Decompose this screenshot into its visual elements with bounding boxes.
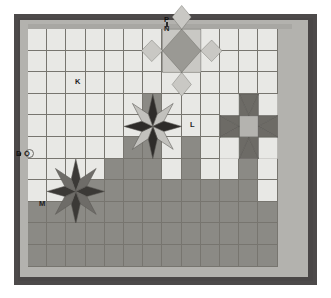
grid-cell bbox=[182, 223, 201, 245]
grid-cell bbox=[220, 180, 239, 202]
grid-cell bbox=[66, 94, 85, 116]
grid-cell bbox=[201, 223, 220, 245]
label-d: D bbox=[16, 150, 21, 158]
grid-cell bbox=[86, 115, 105, 137]
grid-cell bbox=[143, 223, 162, 245]
grid-cell bbox=[239, 180, 258, 202]
grid-cell bbox=[86, 51, 105, 73]
grid-cell bbox=[201, 137, 220, 159]
grid-cell bbox=[124, 202, 143, 224]
grid-cell bbox=[220, 223, 239, 245]
grid-cell bbox=[66, 51, 85, 73]
grid-cell bbox=[201, 94, 220, 116]
lemoyne-star-lower-left bbox=[47, 159, 105, 224]
grid-cell bbox=[239, 159, 258, 181]
grid-cell bbox=[86, 29, 105, 51]
grid-cell bbox=[47, 245, 66, 267]
grid-cell bbox=[162, 245, 181, 267]
grid-cell bbox=[124, 159, 143, 181]
grid-cell bbox=[47, 29, 66, 51]
sawtooth-star-right bbox=[220, 94, 278, 159]
grid-cell bbox=[258, 202, 277, 224]
grid-cell bbox=[258, 51, 277, 73]
grid-cell bbox=[105, 72, 124, 94]
grid-cell bbox=[143, 159, 162, 181]
grid-cell bbox=[66, 29, 85, 51]
grid-cell bbox=[182, 180, 201, 202]
grid-cell bbox=[47, 115, 66, 137]
grid-cell bbox=[105, 51, 124, 73]
grid-cell bbox=[47, 223, 66, 245]
grid-cell bbox=[201, 115, 220, 137]
grid-cell bbox=[258, 29, 277, 51]
grid-cell bbox=[258, 159, 277, 181]
grid-cell bbox=[105, 223, 124, 245]
grid-cell bbox=[105, 245, 124, 267]
grid-cell bbox=[124, 223, 143, 245]
grid-cell bbox=[162, 159, 181, 181]
grid-cell bbox=[66, 245, 85, 267]
grid-cell bbox=[201, 202, 220, 224]
grid-cell bbox=[86, 94, 105, 116]
label-m: M bbox=[39, 200, 45, 208]
grid-cell bbox=[28, 29, 47, 51]
grid-cell bbox=[239, 51, 258, 73]
grid-cell bbox=[105, 115, 124, 137]
label-o: O bbox=[24, 150, 30, 158]
grid-cell bbox=[239, 72, 258, 94]
grid-cell bbox=[258, 223, 277, 245]
grid-cell bbox=[182, 202, 201, 224]
label-k: K bbox=[75, 78, 80, 86]
square-on-point-block bbox=[141, 5, 222, 97]
grid-cell bbox=[105, 202, 124, 224]
grid-cell bbox=[201, 159, 220, 181]
grid-cell bbox=[105, 29, 124, 51]
grid-cell bbox=[201, 180, 220, 202]
label-l: L bbox=[190, 121, 195, 129]
grid-cell bbox=[28, 223, 47, 245]
grid-cell bbox=[182, 159, 201, 181]
quilt-diagram: PNKLMDO bbox=[0, 0, 331, 298]
grid-cell bbox=[66, 115, 85, 137]
lemoyne-star-center bbox=[124, 94, 182, 159]
grid-cell bbox=[105, 180, 124, 202]
grid-cell bbox=[86, 245, 105, 267]
grid-cell bbox=[66, 223, 85, 245]
grid-cell bbox=[220, 29, 239, 51]
grid-cell bbox=[182, 245, 201, 267]
grid-cell bbox=[258, 245, 277, 267]
grid-cell bbox=[239, 202, 258, 224]
grid-cell bbox=[143, 245, 162, 267]
grid-cell bbox=[162, 202, 181, 224]
grid-cell bbox=[162, 180, 181, 202]
grid-cell bbox=[47, 137, 66, 159]
grid-cell bbox=[124, 180, 143, 202]
grid-cell bbox=[162, 223, 181, 245]
grid-cell bbox=[66, 137, 85, 159]
grid-cell bbox=[143, 202, 162, 224]
grid-cell bbox=[47, 94, 66, 116]
grid-cell bbox=[28, 245, 47, 267]
grid-cell bbox=[86, 223, 105, 245]
grid-cell bbox=[143, 180, 162, 202]
grid-cell bbox=[220, 51, 239, 73]
grid-cell bbox=[182, 94, 201, 116]
grid-cell bbox=[220, 159, 239, 181]
grid-cell bbox=[47, 51, 66, 73]
grid-cell bbox=[28, 94, 47, 116]
grid-cell bbox=[220, 72, 239, 94]
grid-cell bbox=[182, 137, 201, 159]
grid-cell bbox=[201, 245, 220, 267]
grid-cell bbox=[28, 72, 47, 94]
grid-cell bbox=[258, 72, 277, 94]
grid-cell bbox=[239, 29, 258, 51]
label-p: P bbox=[164, 16, 169, 24]
grid-cell bbox=[28, 51, 47, 73]
grid-cell bbox=[258, 180, 277, 202]
grid-cell bbox=[220, 245, 239, 267]
label-n: N bbox=[164, 25, 169, 33]
grid-cell bbox=[28, 115, 47, 137]
grid-cell bbox=[105, 94, 124, 116]
grid-cell bbox=[239, 223, 258, 245]
grid-cell bbox=[220, 202, 239, 224]
